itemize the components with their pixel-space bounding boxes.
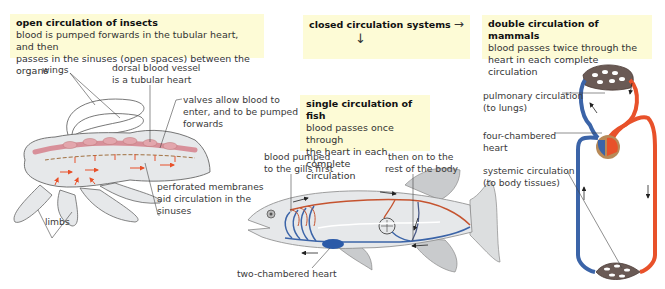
label-perforated-1: perforated membranes [157,181,264,193]
fish-drawing [248,168,500,272]
label-four-chambered-1: four-chambered [483,130,556,142]
label-gills-2: to the gills first [264,163,333,175]
label-dorsal-vessel-1: dorsal blood vessel [112,62,200,74]
label-two-chambered-heart: two-chambered heart [237,268,337,280]
label-perforated-3: sinuses [157,205,191,217]
label-wings: wings [42,64,69,76]
label-valves-3: forwards [183,118,223,130]
label-systemic-2: (to body tissues) [483,177,560,189]
label-valves-2: enter, and to be pumped [183,106,298,118]
diagram-canvas [0,0,665,289]
label-limbs: limbs [45,216,70,228]
label-pulmonary-1: pulmonary circulation [483,90,583,102]
label-gills-1: blood pumped [264,151,330,163]
label-systemic-1: systemic circulation [483,165,575,177]
label-rest-body-1: then on to the [388,151,453,163]
label-dorsal-vessel-2: is a tubular heart [112,74,191,86]
label-valves-1: valves allow blood to [183,94,280,106]
label-rest-body-2: rest of the body [385,163,458,175]
label-perforated-2: aid circulation in the [157,193,251,205]
label-pulmonary-2: (to lungs) [483,102,527,114]
label-four-chambered-2: heart [483,142,508,154]
